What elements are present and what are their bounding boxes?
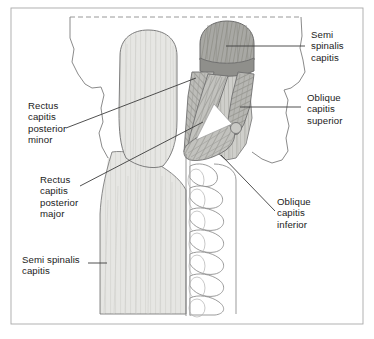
lower-neck-muscle-band bbox=[100, 151, 186, 314]
leader-oblique-inferior bbox=[221, 155, 275, 211]
rectus-capitis-posterior-major-label: Rectus capitis posterior major bbox=[40, 174, 78, 220]
oblique-capitis-inferior-label: Oblique capitis inferior bbox=[277, 196, 311, 230]
semispinalis-capitis-left-belly bbox=[119, 30, 177, 168]
cervical-vertebrae-column bbox=[186, 154, 236, 317]
rectus-capitis-posterior-minor-label: Rectus capitis posterior minor bbox=[28, 100, 66, 146]
semispinalis-capitis-lower-label: Semi spinalis capitis bbox=[22, 254, 80, 277]
oblique-capitis-superior-label: Oblique capitis superior bbox=[307, 92, 342, 126]
anatomical-figure: Semi spinalis capitis Oblique capitis su… bbox=[0, 0, 374, 339]
semispinalis-capitis-upper-label: Semi spinalis capitis bbox=[311, 29, 344, 63]
